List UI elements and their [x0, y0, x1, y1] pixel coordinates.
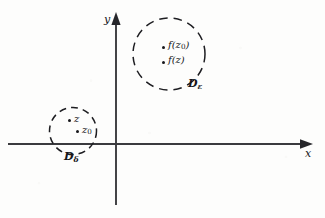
complex-plane-figure: y x z z0 Dδ f(z0) f(z) Dε — [0, 0, 325, 218]
figure-vector-layer — [0, 0, 325, 218]
region-d-epsilon-label: Dε — [188, 78, 202, 90]
region-d-delta-label: Dδ — [64, 151, 79, 163]
x-axis-label: x — [305, 148, 311, 159]
region-d-epsilon-subscript: ε — [198, 82, 203, 91]
point-fz0-tail: ) — [185, 39, 189, 50]
point-z0-dot — [76, 130, 79, 133]
point-z0-label: z0 — [82, 125, 92, 136]
point-z-dot — [68, 119, 71, 122]
point-fz-dot — [162, 61, 165, 64]
point-fz-label: f(z) — [168, 55, 185, 65]
point-z0-subscript: 0 — [87, 127, 92, 136]
region-d-delta-base: D — [64, 150, 74, 163]
region-d-delta-subscript: δ — [74, 155, 79, 164]
point-fz0-label: f(z0) — [168, 40, 189, 51]
x-axis — [8, 139, 313, 149]
y-axis — [111, 12, 120, 205]
point-fz0-dot — [162, 46, 165, 49]
y-axis-label: y — [104, 14, 110, 25]
point-z-label: z — [74, 114, 79, 124]
point-fz0-head: f(z — [168, 39, 181, 50]
region-d-epsilon-base: D — [188, 77, 198, 90]
y-axis-arrowhead — [111, 12, 120, 25]
